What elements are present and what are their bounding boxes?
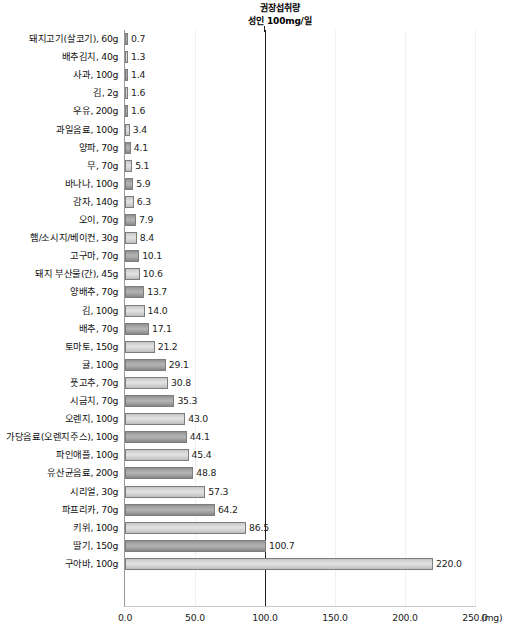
bar — [125, 341, 155, 353]
bar — [125, 431, 187, 443]
category-label: 무, 70g — [0, 157, 118, 175]
bar-value-label: 29.1 — [169, 356, 189, 374]
bar — [125, 540, 266, 552]
bar-row: 바나나, 100g5.9 — [0, 175, 509, 193]
bar-value-label: 10.6 — [143, 265, 163, 283]
bar-value-label: 64.2 — [218, 501, 238, 519]
bar — [125, 504, 215, 516]
bar-row: 햄/소시지/베이컨, 30g8.4 — [0, 229, 509, 247]
bar-value-label: 21.2 — [158, 338, 178, 356]
category-label: 구아바, 100g — [0, 555, 118, 573]
category-label: 딸기, 150g — [0, 537, 118, 555]
bar-row: 양파, 70g4.1 — [0, 139, 509, 157]
bar — [125, 69, 128, 81]
bar-value-label: 17.1 — [152, 320, 172, 338]
bar — [125, 305, 145, 317]
bar-row: 시금치, 70g35.3 — [0, 392, 509, 410]
bar — [125, 142, 131, 154]
x-tick-label: 150.0 — [305, 612, 365, 623]
bar-value-label: 5.9 — [136, 175, 150, 193]
bar-value-label: 57.3 — [208, 483, 228, 501]
x-tick-label: 0.0 — [95, 612, 155, 623]
bar-row: 토마토, 150g21.2 — [0, 338, 509, 356]
bar — [125, 196, 134, 208]
bar-value-label: 0.7 — [131, 30, 145, 48]
bar-row: 오렌지, 100g43.0 — [0, 410, 509, 428]
bar — [125, 486, 205, 498]
bar — [125, 377, 168, 389]
bar — [125, 449, 189, 461]
bar-row: 풋고추, 70g30.8 — [0, 374, 509, 392]
category-label: 오렌지, 100g — [0, 410, 118, 428]
bar-value-label: 13.7 — [147, 283, 167, 301]
bar — [125, 250, 139, 262]
bar-value-label: 35.3 — [177, 392, 197, 410]
bar — [125, 323, 149, 335]
bar — [125, 105, 128, 117]
category-label: 오이, 70g — [0, 211, 118, 229]
category-label: 바나나, 100g — [0, 175, 118, 193]
bar-row: 시리얼, 30g57.3 — [0, 483, 509, 501]
x-tick-label: 200.0 — [375, 612, 435, 623]
bar — [125, 268, 140, 280]
x-axis-line — [125, 606, 476, 607]
x-axis-unit-label: (mg) — [481, 612, 502, 623]
category-label: 배추, 70g — [0, 320, 118, 338]
bar — [125, 214, 136, 226]
category-label: 양배추, 70g — [0, 283, 118, 301]
bar-row: 딸기, 150g100.7 — [0, 537, 509, 555]
category-label: 사과, 100g — [0, 66, 118, 84]
bar-row: 유산균음료, 200g48.8 — [0, 464, 509, 482]
category-label: 시리얼, 30g — [0, 483, 118, 501]
bar-row: 김, 2g1.6 — [0, 84, 509, 102]
bar-value-label: 100.7 — [269, 537, 295, 555]
bar-row: 감자, 140g6.3 — [0, 193, 509, 211]
chart-title-line2: 성인 100mg/일 — [200, 15, 360, 28]
category-label: 햄/소시지/베이컨, 30g — [0, 229, 118, 247]
bar — [125, 395, 174, 407]
bar — [125, 178, 133, 190]
bar — [125, 522, 246, 534]
bar-value-label: 44.1 — [190, 428, 210, 446]
chart-title-line1: 권장섭취량 — [200, 2, 360, 15]
bar-value-label: 1.3 — [131, 48, 145, 66]
bar-row: 배추김치, 40g1.3 — [0, 48, 509, 66]
bar-value-label: 30.8 — [171, 374, 191, 392]
x-tick-label: 100.0 — [235, 612, 295, 623]
bar-row: 사과, 100g1.4 — [0, 66, 509, 84]
category-label: 김, 2g — [0, 84, 118, 102]
category-label: 돼지고기(살코기), 60g — [0, 30, 118, 48]
bar-value-label: 7.9 — [139, 211, 153, 229]
bar — [125, 33, 128, 45]
category-label: 양파, 70g — [0, 139, 118, 157]
bar-value-label: 5.1 — [135, 157, 149, 175]
bar-value-label: 1.4 — [131, 66, 145, 84]
category-label: 키위, 100g — [0, 519, 118, 537]
bar-row: 양배추, 70g13.7 — [0, 283, 509, 301]
category-label: 토마토, 150g — [0, 338, 118, 356]
category-label: 과일음료, 100g — [0, 121, 118, 139]
bar-row: 고구마, 70g10.1 — [0, 247, 509, 265]
category-label: 귤, 100g — [0, 356, 118, 374]
bar — [125, 87, 128, 99]
category-label: 감자, 140g — [0, 193, 118, 211]
bar-row: 돼지 부산물(간), 45g10.6 — [0, 265, 509, 283]
bar-row: 가당음료(오렌지주스), 100g44.1 — [0, 428, 509, 446]
category-label: 시금치, 70g — [0, 392, 118, 410]
bar-value-label: 10.1 — [142, 247, 162, 265]
bar-value-label: 220.0 — [436, 555, 462, 573]
bar-row: 파프리카, 70g64.2 — [0, 501, 509, 519]
bar-row: 키위, 100g86.5 — [0, 519, 509, 537]
bar-row: 돼지고기(살코기), 60g0.7 — [0, 30, 509, 48]
bar-value-label: 86.5 — [249, 519, 269, 537]
category-label: 배추김치, 40g — [0, 48, 118, 66]
bar-row: 구아바, 100g220.0 — [0, 555, 509, 573]
bar-row: 우유, 200g1.6 — [0, 102, 509, 120]
bar — [125, 558, 433, 570]
category-label: 파인애플, 100g — [0, 446, 118, 464]
bar-value-label: 1.6 — [131, 102, 145, 120]
bar-value-label: 45.4 — [192, 446, 212, 464]
bar-value-label: 8.4 — [140, 229, 154, 247]
bar-value-label: 1.6 — [131, 84, 145, 102]
bar — [125, 51, 128, 63]
